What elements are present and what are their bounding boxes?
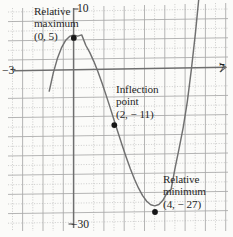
annotation-inflection-point: Inflection point (2, − 11)	[116, 83, 159, 120]
x-axis-min-label: −3	[2, 64, 14, 77]
inflection-line-2: point	[116, 95, 159, 107]
x-axis-max-label: 7	[219, 62, 225, 75]
point-inflection	[111, 122, 117, 128]
relative-minimum-line-1: Relative	[163, 173, 206, 185]
point-relative-minimum	[152, 209, 158, 215]
graph-figure: Relative maximum (0, 5) Inflection point…	[0, 0, 233, 237]
relative-maximum-line-2: maximum	[34, 17, 79, 29]
x-axis	[14, 63, 226, 72]
relative-minimum-line-2: minimum	[163, 185, 206, 197]
inflection-line-1: Inflection	[116, 83, 159, 95]
y-axis-max-label: 10	[77, 2, 89, 15]
annotation-relative-minimum: Relative minimum (4, − 27)	[163, 173, 206, 210]
relative-maximum-line-1: Relative	[34, 5, 79, 17]
y-axis-min-label: −30	[71, 218, 89, 231]
inflection-coordinates: (2, − 11)	[116, 108, 159, 120]
relative-minimum-coordinates: (4, − 27)	[163, 198, 206, 210]
relative-maximum-coordinates: (0, 5)	[34, 30, 79, 42]
annotation-relative-maximum: Relative maximum (0, 5)	[34, 5, 79, 42]
